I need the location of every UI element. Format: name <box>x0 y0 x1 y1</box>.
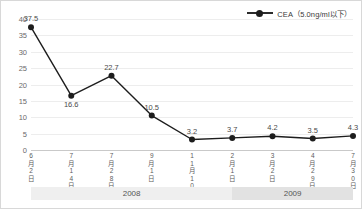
data-point-marker <box>229 135 235 141</box>
point-value-label: 4.2 <box>267 123 277 132</box>
y-axis-tick: 15 <box>19 96 27 105</box>
x-axis-label: 7月30日 <box>350 152 357 190</box>
y-axis-tick: 25 <box>19 64 27 73</box>
series-polyline <box>31 27 353 139</box>
year-band: 2009 <box>232 187 353 200</box>
point-value-label: 3.2 <box>187 127 197 136</box>
plot-area: 0510152025303540 37.516.622.710.53.23.74… <box>31 19 353 150</box>
gridline <box>31 150 353 151</box>
data-point-marker <box>28 24 34 30</box>
point-value-label: 3.5 <box>308 126 318 135</box>
x-axis-label: 2月1日 <box>229 152 236 182</box>
data-point-marker <box>109 73 115 79</box>
y-axis-tick: 30 <box>19 47 27 56</box>
point-value-label: 22.7 <box>104 63 119 72</box>
data-point-marker <box>350 133 356 139</box>
x-axis-label: 3月2日 <box>269 152 276 182</box>
legend-label: CEA（5.0ng/ml以下） <box>277 8 351 19</box>
chart-legend: CEA（5.0ng/ml以下） <box>247 6 351 20</box>
y-axis-tick: 0 <box>23 146 27 155</box>
x-axis-label: 4月29日 <box>309 152 316 190</box>
x-axis-label: 6月2日 <box>28 152 35 182</box>
year-band: 2008 <box>31 187 232 200</box>
point-value-label: 37.5 <box>24 14 39 23</box>
point-value-label: 10.5 <box>144 103 159 112</box>
point-value-label: 16.6 <box>64 100 79 109</box>
data-point-marker <box>189 137 195 143</box>
y-axis-tick: 5 <box>23 129 27 138</box>
x-axis-label: 7月14日 <box>68 152 75 190</box>
data-point-marker <box>68 93 74 99</box>
cea-line-chart: CEA（5.0ng/ml以下） 0510152025303540 37.516.… <box>0 0 362 209</box>
x-axis-label: 9月1日 <box>148 152 155 182</box>
y-axis-tick: 10 <box>19 113 27 122</box>
x-axis-label: 7月28日 <box>108 152 115 190</box>
point-value-label: 4.3 <box>348 123 358 132</box>
y-axis-tick: 20 <box>19 80 27 89</box>
data-point-marker <box>310 136 316 142</box>
line-dot-marker-icon <box>247 8 273 18</box>
year-bands: 20082009 <box>31 187 353 200</box>
y-axis-tick: 35 <box>19 31 27 40</box>
point-value-label: 3.7 <box>227 125 237 134</box>
x-axis-labels: 6月2日7月14日7月28日9月1日11月10日2月1日3月2日4月29日7月3… <box>31 152 353 186</box>
data-point-marker <box>270 133 276 139</box>
data-point-marker <box>149 113 155 119</box>
